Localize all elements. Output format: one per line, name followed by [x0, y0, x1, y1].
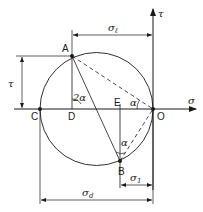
- angle-label-alpha-O: α: [130, 97, 137, 108]
- angle-label-alpha-B: α: [121, 137, 128, 148]
- point-B-label: B: [118, 166, 125, 177]
- angle-arc-alpha-B: [116, 152, 125, 154]
- sigma-l-subscript: ℓ: [114, 27, 118, 35]
- sigma-d-subscript: d: [89, 192, 94, 200]
- point-O-dot: [151, 107, 155, 111]
- sigma-axis-label: σ: [188, 95, 196, 106]
- point-A-dot: [70, 54, 74, 58]
- point-C-label: C: [31, 111, 38, 122]
- dimension-tau: τ: [8, 57, 22, 108]
- dimension-sigma-1: σ 1: [121, 172, 152, 185]
- tau-axis: τ: [153, 8, 164, 190]
- tau-dimension-label: τ: [8, 78, 14, 89]
- tau-axis-label: τ: [158, 8, 164, 19]
- sigma-1-subscript: 1: [137, 177, 141, 185]
- point-D-label: D: [68, 111, 75, 122]
- point-E-label: E: [114, 97, 121, 108]
- point-C-dot: [38, 107, 42, 111]
- dimension-sigma-l: σ ℓ: [73, 22, 152, 35]
- point-B-dot: [118, 159, 122, 163]
- mohr-circle-diagram: σ τ σ ℓ τ σ 1 σ d: [0, 0, 203, 212]
- point-A-label: A: [62, 43, 69, 54]
- angle-label-2alpha: 2α: [72, 92, 86, 103]
- angle-arc-alpha-O: [137, 100, 140, 109]
- point-O-label: O: [157, 111, 165, 122]
- dimension-sigma-d: σ d: [41, 187, 152, 200]
